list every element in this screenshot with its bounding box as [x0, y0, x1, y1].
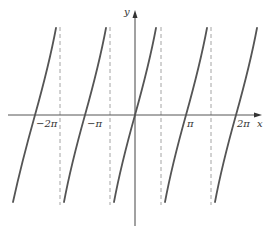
function-graph: y x −2π −π π 2π [0, 0, 271, 231]
tick-label-2pi: 2π [236, 118, 250, 129]
tick-label-neg-pi: −π [87, 118, 102, 129]
y-axis-label: y [123, 6, 130, 17]
x-axis-arrow-icon [254, 113, 262, 118]
tick-label-pi: π [186, 118, 194, 129]
tick-label-neg-2pi: −2π [36, 118, 58, 129]
x-axis-label: x [257, 118, 263, 129]
y-axis-arrow-icon [133, 10, 138, 18]
